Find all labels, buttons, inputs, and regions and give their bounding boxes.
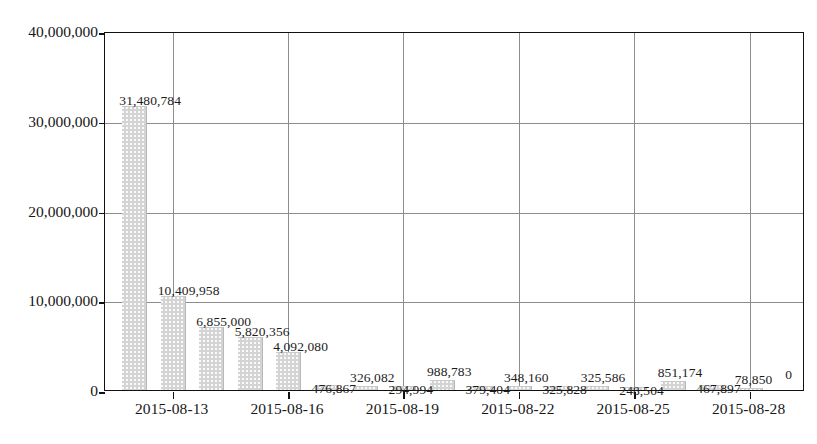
bar-value-label: 248,504	[619, 383, 664, 399]
bar-value-label: 31,480,784	[119, 93, 181, 109]
x-axis-tick-label: 2015-08-19	[366, 400, 439, 418]
y-axis-tick-mark	[99, 33, 105, 35]
bar-value-label: 851,174	[658, 365, 703, 381]
y-axis-labels: 010,000,00020,000,00030,000,00040,000,00…	[0, 0, 98, 444]
bar	[584, 386, 609, 390]
y-axis-tick-mark	[99, 213, 105, 215]
vertical-gridline	[750, 33, 751, 390]
x-axis-tick-mark	[519, 392, 521, 399]
bar	[276, 352, 301, 390]
bar	[353, 386, 378, 390]
bar-value-label: 4,092,080	[273, 339, 328, 355]
x-axis-tick-label: 2015-08-22	[481, 400, 554, 418]
bar	[661, 381, 686, 390]
y-axis-tick-mark	[99, 123, 105, 125]
bar	[122, 106, 147, 390]
x-axis-tick-label: 2015-08-16	[250, 400, 323, 418]
bar	[161, 296, 186, 390]
bar-value-label: 78,850	[735, 372, 773, 388]
x-axis-tick-mark	[750, 392, 752, 399]
y-axis-tick-label: 10,000,000	[28, 292, 98, 310]
y-axis-tick-label: 40,000,000	[28, 23, 98, 41]
bar-value-label: 5,820,356	[235, 324, 290, 340]
x-axis-tick-label: 2015-08-25	[597, 400, 670, 418]
vertical-gridline	[519, 33, 520, 390]
horizontal-gridline	[105, 302, 803, 303]
vertical-gridline	[403, 33, 404, 390]
x-axis-tick-label: 2015-08-28	[712, 400, 785, 418]
plot-inner	[105, 33, 803, 390]
bar	[738, 388, 763, 390]
bar-value-label-zero: 0	[785, 367, 792, 383]
horizontal-gridline	[105, 123, 803, 124]
x-axis-tick-label: 2015-08-13	[135, 400, 208, 418]
x-axis-tick-mark	[288, 392, 290, 399]
bar-value-label: 988,783	[427, 364, 472, 380]
y-axis-tick-label: 30,000,000	[28, 113, 98, 131]
bar	[238, 337, 263, 390]
y-axis-tick-mark	[99, 392, 105, 394]
y-axis-tick-label: 20,000,000	[28, 203, 98, 221]
y-axis-tick-mark	[99, 302, 105, 304]
bar-value-label: 10,409,958	[158, 283, 220, 299]
bar	[199, 327, 224, 390]
bar	[430, 380, 455, 390]
bar-value-label: 294,994	[389, 382, 434, 398]
horizontal-gridline	[105, 213, 803, 214]
bar-chart: 010,000,00020,000,00030,000,00040,000,00…	[0, 0, 817, 444]
x-axis-tick-mark	[173, 392, 175, 399]
y-axis-tick-label: 0	[90, 382, 98, 400]
vertical-gridline	[634, 33, 635, 390]
plot-area	[104, 32, 804, 391]
bar	[507, 386, 532, 390]
